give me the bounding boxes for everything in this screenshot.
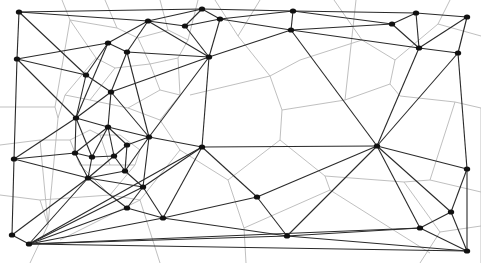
delaunay-edge	[148, 21, 209, 57]
site-node	[11, 156, 17, 161]
delaunay-edge	[29, 147, 202, 244]
delaunay-edge	[17, 43, 108, 59]
delaunay-edge	[19, 9, 202, 12]
delaunay-edge	[127, 187, 143, 208]
voronoi-edge	[270, 76, 282, 110]
voronoi-edge	[62, 0, 70, 20]
delaunay-edge	[202, 146, 377, 147]
delaunay-edge	[75, 118, 76, 153]
delaunay-edge	[451, 212, 467, 251]
delaunay-edge	[29, 228, 420, 244]
voronoi-edge	[282, 100, 345, 110]
delaunay-edge	[76, 118, 108, 127]
delaunay-edge	[257, 197, 287, 236]
delaunay-voronoi-diagram	[0, 0, 481, 263]
voronoi-edge	[390, 60, 395, 84]
delaunay-edge	[392, 13, 416, 24]
delaunay-edge	[209, 19, 220, 57]
delaunay-edge	[17, 12, 19, 59]
voronoi-edge	[55, 107, 58, 118]
delaunay-edge	[202, 57, 209, 147]
delaunay-edge	[202, 147, 257, 197]
voronoi-edge	[48, 118, 58, 225]
voronoi-edge	[0, 195, 40, 200]
voronoi-edge	[190, 76, 270, 95]
voronoi-edge	[238, 0, 260, 36]
delaunay-edge	[163, 218, 287, 236]
delaunay-edge	[14, 59, 17, 159]
voronoi-edge	[430, 180, 481, 192]
delaunay-edge	[291, 30, 419, 48]
site-node	[124, 205, 130, 210]
site-node	[83, 72, 89, 77]
voronoi-edge	[160, 90, 180, 95]
delaunay-edge	[419, 48, 458, 53]
site-node	[124, 49, 130, 54]
site-node	[14, 56, 20, 61]
voronoi-edge	[135, 150, 140, 165]
voronoi-edge	[65, 95, 90, 100]
site-node	[416, 45, 422, 50]
delaunay-edge	[143, 147, 202, 187]
delaunay-edge	[257, 146, 377, 197]
voronoi-edge	[244, 228, 246, 263]
site-node	[105, 40, 111, 45]
delaunay-edge	[29, 187, 143, 244]
site-node	[199, 6, 205, 11]
site-node	[206, 54, 212, 59]
voronoi-edge	[138, 38, 150, 64]
voronoi-edge	[438, 24, 481, 36]
voronoi-edge	[390, 84, 400, 96]
voronoi-edge	[228, 180, 244, 228]
voronoi-edge	[105, 0, 117, 28]
delaunay-edge	[149, 137, 202, 147]
voronoi-edge	[345, 84, 390, 100]
site-node	[122, 168, 128, 173]
site-node	[455, 50, 461, 55]
voronoi-edge	[300, 40, 362, 60]
site-node	[160, 215, 166, 220]
site-node	[464, 166, 470, 171]
voronoi-edge	[280, 110, 282, 140]
site-node	[146, 134, 152, 139]
delaunay-edge	[202, 9, 293, 11]
delaunay-edge	[377, 146, 420, 228]
site-node	[413, 10, 419, 15]
delaunay-edge	[75, 153, 88, 178]
site-node	[389, 21, 395, 26]
site-node	[72, 150, 78, 155]
site-node	[417, 225, 423, 230]
delaunay-edge	[416, 13, 419, 48]
voronoi-edge	[128, 90, 160, 108]
delaunay-edge	[293, 11, 392, 24]
delaunay-edge	[220, 11, 293, 19]
voronoi-edge	[0, 140, 40, 145]
delaunay-edge	[108, 43, 127, 52]
site-node	[105, 124, 111, 129]
site-node	[448, 209, 454, 214]
site-node	[182, 23, 188, 28]
voronoi-edge	[138, 30, 168, 38]
voronoi-edge	[455, 102, 481, 108]
voronoi-edge	[150, 58, 178, 64]
delaunay-edge	[108, 92, 111, 127]
site-node	[284, 233, 290, 238]
site-node	[254, 194, 260, 199]
delaunay-edge	[419, 17, 467, 48]
site-node	[111, 153, 117, 158]
site-node	[464, 14, 470, 19]
voronoi-edge	[65, 58, 96, 95]
delaunay-edge	[17, 59, 76, 118]
voronoi-edge	[160, 0, 168, 30]
delaunay-edge	[108, 21, 148, 43]
voronoi-edge	[430, 102, 455, 180]
voronoi-edge	[96, 58, 115, 68]
site-node	[145, 18, 151, 23]
delaunay-edge	[17, 59, 86, 75]
delaunay-edge	[88, 178, 127, 208]
voronoi-edge	[160, 120, 180, 150]
voronoi-edge	[438, 0, 450, 24]
voronoi-edge	[70, 130, 90, 140]
delaunay-edge	[185, 26, 209, 57]
site-node	[464, 248, 470, 253]
